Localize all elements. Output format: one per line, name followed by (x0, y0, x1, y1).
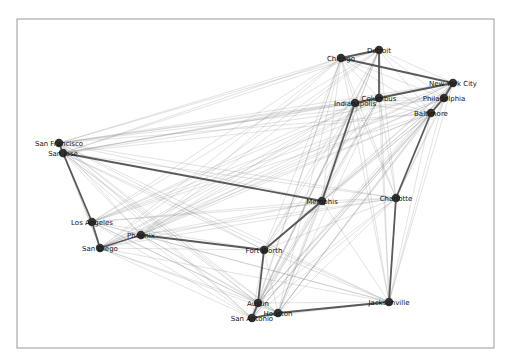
node-label-columbus: Columbus (362, 95, 397, 103)
node-label-fort-worth: Fort Worth (246, 247, 283, 255)
network-graph: San FranciscoSan JoseLos AngelesSan Dieg… (0, 0, 514, 363)
node-label-memphis: Memphis (306, 198, 338, 206)
node-label-houston: Houston (263, 310, 292, 318)
node-label-austin: Austin (247, 300, 269, 308)
node-label-philadelphia: Philadelphia (423, 95, 466, 103)
node-label-jacksonville: Jacksonville (368, 299, 410, 307)
node-label-baltimore: Baltimore (414, 110, 448, 118)
node-label-detroit: Detroit (367, 47, 391, 55)
node-label-charlotte: Charlotte (380, 195, 413, 203)
node-label-san-diego: San Diego (82, 245, 118, 253)
node-label-phoenix: Phoenix (127, 232, 155, 240)
node-label-san-francisco: San Francisco (35, 140, 83, 148)
node-label-san-jose: San Jose (48, 150, 78, 158)
node-label-los-angeles: Los Angeles (71, 219, 113, 227)
node-label-chicago: Chicago (327, 55, 355, 63)
node-label-new-york-city: New York City (429, 80, 477, 88)
